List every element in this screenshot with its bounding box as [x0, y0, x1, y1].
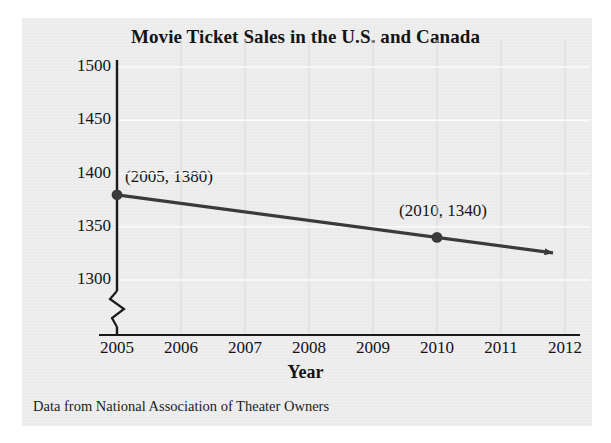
figure-container: Movie Ticket Sales in the U.S. and Canad… [0, 0, 611, 443]
x-tick-label: 2012 [525, 338, 605, 358]
y-tick-label: 1400 [30, 163, 111, 183]
y-tick-label: 1500 [30, 56, 111, 76]
data-point-annotation: (2005, 1380) [125, 167, 213, 187]
chart-title: Movie Ticket Sales in the U.S. and Canad… [0, 26, 611, 48]
x-axis-title: Year [0, 362, 611, 383]
chart-source-caption: Data from National Association of Theate… [33, 398, 329, 415]
data-point-annotation: (2010, 1340) [399, 201, 487, 221]
y-tick-label: 1300 [30, 269, 111, 289]
y-tick-label: 1350 [30, 216, 111, 236]
y-tick-label: 1450 [30, 109, 111, 129]
